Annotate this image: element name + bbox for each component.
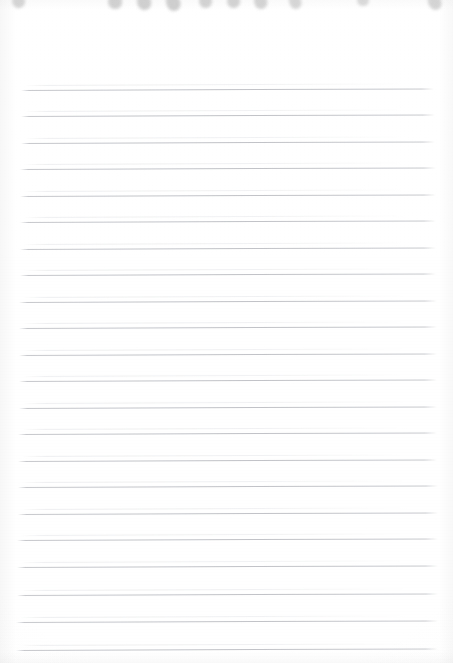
scanned-notepad-page [0, 0, 453, 663]
paper-surface [0, 0, 453, 663]
